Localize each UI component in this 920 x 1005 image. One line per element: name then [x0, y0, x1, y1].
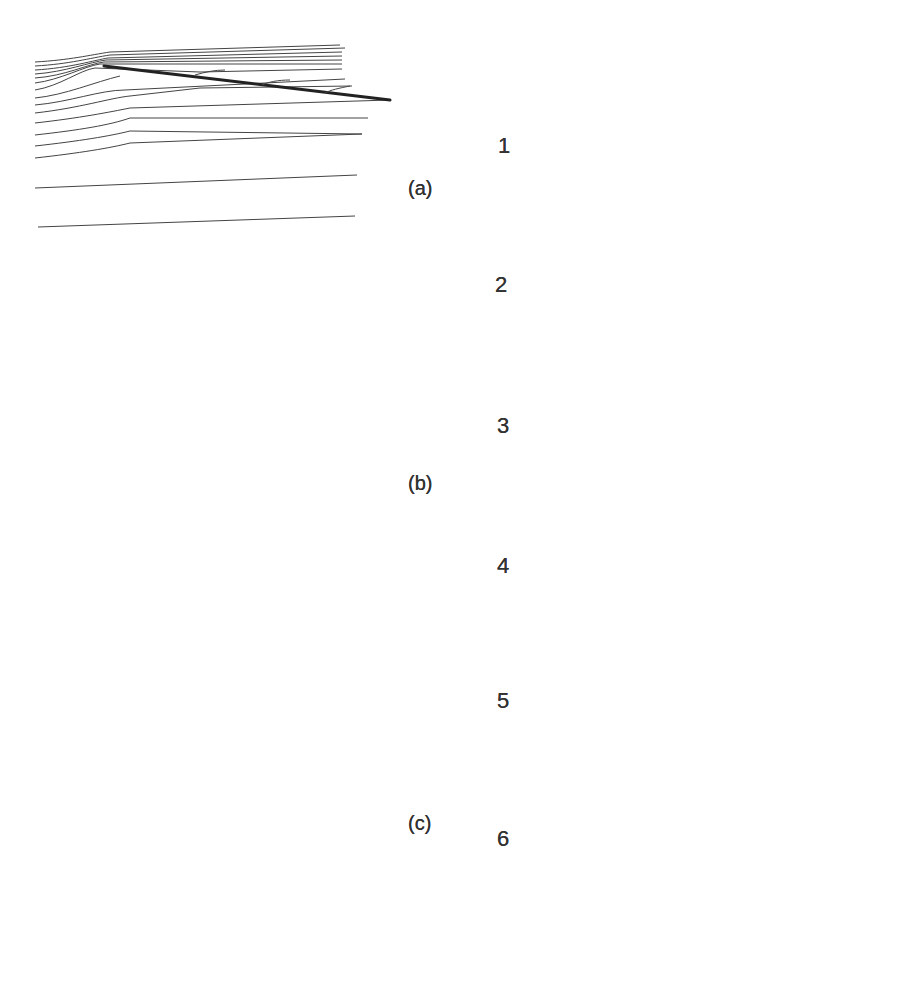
panel-1-label: 1	[498, 133, 510, 159]
flow-diagram-figure	[0, 0, 920, 1005]
panel-a-label: (a)	[408, 177, 432, 200]
panel-3-label: 3	[497, 413, 509, 439]
panel-b-label: (b)	[408, 472, 432, 495]
panel-c-label: (c)	[408, 812, 431, 835]
panel-5-label: 5	[497, 688, 509, 714]
panel-2-label: 2	[495, 272, 507, 298]
panel-a-plate-flow	[35, 45, 390, 227]
panel-4-label: 4	[497, 553, 509, 579]
panel-6-label: 6	[497, 826, 509, 852]
